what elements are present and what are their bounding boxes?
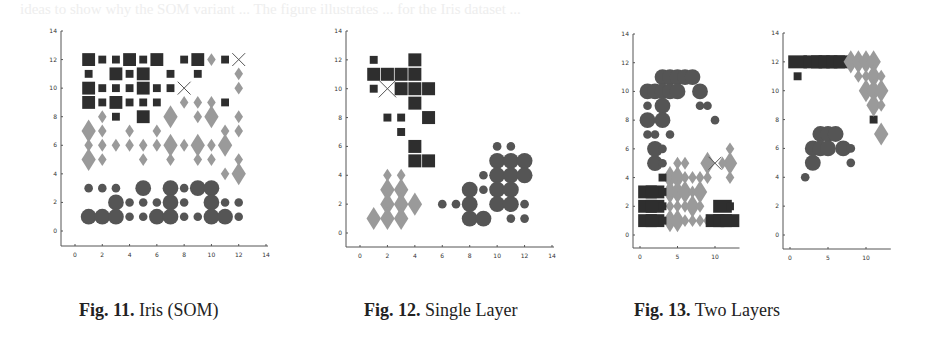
square-marker	[98, 56, 106, 64]
y-tick-label: 14	[621, 30, 629, 37]
circle-marker	[520, 214, 529, 223]
circle-marker	[503, 167, 519, 183]
circle-marker	[462, 196, 478, 212]
x-tick-label: 0	[358, 252, 362, 259]
circle-marker	[685, 69, 701, 85]
diamond-marker	[139, 153, 148, 166]
x-tick-label: 0	[638, 253, 642, 260]
x-tick-label: 6	[155, 251, 159, 258]
cross-marker	[232, 53, 245, 66]
diamond-marker	[394, 207, 408, 230]
circle-marker	[194, 212, 203, 221]
square-marker	[139, 99, 147, 107]
circle-marker	[438, 200, 447, 209]
circle-marker	[125, 212, 134, 221]
x-tick-label: 5	[826, 254, 830, 261]
y-tick-label: 4	[775, 173, 779, 180]
square-marker	[870, 116, 878, 124]
circle-marker	[462, 182, 478, 198]
circle-marker	[703, 101, 712, 110]
y-tick-label: 10	[771, 87, 779, 94]
square-marker	[397, 128, 405, 136]
diamond-marker	[194, 96, 203, 109]
y-tick-label: 2	[625, 202, 629, 209]
circle-marker	[655, 98, 671, 114]
square-marker	[659, 174, 667, 182]
diamond-marker	[98, 153, 107, 166]
figure-scatter-plots: 0246810121402468101214024681012140246810…	[0, 0, 945, 347]
y-tick-label: 8	[53, 113, 57, 120]
square-marker	[153, 84, 161, 92]
diamond-marker	[112, 139, 121, 152]
circle-marker	[479, 185, 488, 194]
x-tick-label: 10	[493, 252, 501, 259]
square-marker	[221, 56, 229, 64]
square-marker	[112, 56, 120, 64]
diamond-marker	[703, 171, 712, 184]
y-tick-label: 14	[771, 29, 779, 36]
diamond-marker	[207, 53, 216, 66]
y-tick-label: 12	[334, 56, 342, 63]
diamond-marker	[221, 167, 230, 180]
diamond-marker	[367, 207, 381, 230]
circle-marker	[153, 198, 162, 207]
circle-marker	[846, 159, 855, 168]
square-marker	[180, 56, 188, 64]
square-marker	[408, 97, 421, 110]
circle-marker	[805, 155, 821, 171]
square-marker	[383, 114, 391, 122]
square-marker	[82, 82, 95, 95]
diamond-marker	[98, 125, 107, 138]
scatter-chart-2: 0246810121402468101214	[334, 27, 556, 259]
circle-marker	[846, 144, 855, 153]
caption-label: Fig. 11.	[79, 300, 135, 320]
circle-marker	[135, 180, 151, 196]
x-tick-label: 8	[182, 251, 186, 258]
y-tick-label: 2	[338, 200, 342, 207]
circle-marker	[204, 209, 220, 225]
square-marker	[85, 70, 93, 78]
diamond-marker	[688, 171, 697, 184]
x-tick-label: 8	[468, 252, 472, 259]
diamond-marker	[681, 214, 690, 227]
circle-marker	[658, 145, 667, 154]
y-tick-label: 6	[775, 144, 779, 151]
circle-marker	[112, 184, 121, 193]
circle-marker	[489, 196, 505, 212]
diamond-marker	[153, 125, 162, 138]
diamond-marker	[125, 125, 134, 138]
circle-marker	[190, 180, 206, 196]
y-tick-label: 8	[625, 116, 629, 123]
y-tick-label: 8	[775, 116, 779, 123]
y-tick-label: 12	[49, 56, 57, 63]
square-marker	[126, 99, 134, 107]
circle-marker	[503, 182, 519, 198]
diamond-marker	[696, 214, 705, 227]
y-tick-label: 10	[621, 87, 629, 94]
x-tick-label: 6	[440, 252, 444, 259]
y-tick-label: 2	[53, 198, 57, 205]
y-tick-label: 0	[775, 231, 779, 238]
circle-marker	[98, 184, 107, 193]
diamond-marker	[380, 207, 394, 230]
diamond-marker	[234, 67, 243, 80]
circle-marker	[692, 84, 708, 100]
circle-marker	[139, 198, 148, 207]
circle-marker	[651, 130, 660, 139]
circle-marker	[479, 171, 488, 180]
scatter-chart-4: 024681012140510	[771, 29, 890, 261]
y-tick-label: 6	[625, 145, 629, 152]
square-marker	[422, 154, 435, 167]
diamond-marker	[408, 193, 422, 216]
square-marker	[167, 70, 175, 78]
diamond-marker	[194, 153, 203, 166]
diamond-marker	[726, 171, 735, 184]
x-tick-label: 10	[862, 254, 870, 261]
diamond-marker	[180, 96, 189, 109]
cross-marker	[178, 82, 191, 95]
square-marker	[112, 113, 120, 121]
scatter-chart-3: 024681012140510	[621, 30, 739, 260]
square-marker	[422, 82, 435, 95]
y-tick-label: 0	[625, 231, 629, 238]
square-marker	[123, 53, 136, 66]
